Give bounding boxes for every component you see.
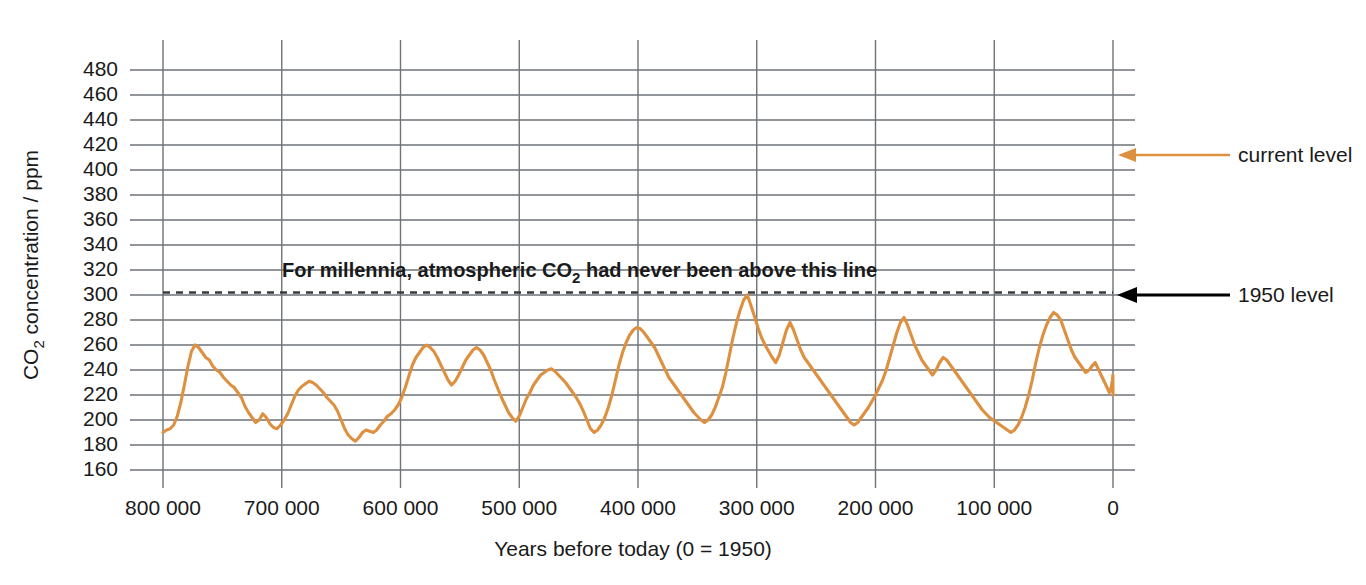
- y-tick-label-220: 220: [83, 382, 118, 405]
- y-axis-title-pre: CO: [19, 349, 42, 381]
- y-tick-label-340: 340: [83, 232, 118, 255]
- y-tick-label-460: 460: [83, 82, 118, 105]
- x-tick-label-300000: 300 000: [719, 496, 795, 519]
- current-level-label: current level: [1238, 143, 1352, 166]
- y-tick-label-300: 300: [83, 282, 118, 305]
- annotation-text-post: had never been above this line: [580, 259, 877, 281]
- y-tick-label-180: 180: [83, 432, 118, 455]
- x-tick-label-600000: 600 000: [363, 496, 439, 519]
- y-axis-title-post: concentration / ppm: [19, 150, 42, 340]
- y-axis-tick-labels: 4804604404204003803603403203002802602402…: [83, 57, 118, 480]
- y-tick-label-420: 420: [83, 132, 118, 155]
- co2-concentration-chart: 4804604404204003803603403203002802602402…: [0, 0, 1366, 585]
- y-tick-label-400: 400: [83, 157, 118, 180]
- y-tick-label-200: 200: [83, 407, 118, 430]
- x-tick-label-200000: 200 000: [838, 496, 914, 519]
- x-tick-label-100000: 100 000: [956, 496, 1032, 519]
- y-tick-label-260: 260: [83, 332, 118, 355]
- annotation-text-subscript: 2: [572, 269, 580, 286]
- chart-svg: 4804604404204003803603403203002802602402…: [0, 0, 1366, 585]
- y-tick-label-360: 360: [83, 207, 118, 230]
- y-tick-label-320: 320: [83, 257, 118, 280]
- x-axis-tick-labels: 800 000700 000600 000500 000400 000300 0…: [125, 496, 1119, 519]
- 1950-level-label: 1950 level: [1238, 283, 1334, 306]
- y-tick-label-280: 280: [83, 307, 118, 330]
- y-tick-label-160: 160: [83, 457, 118, 480]
- x-tick-label-700000: 700 000: [244, 496, 320, 519]
- y-tick-label-480: 480: [83, 57, 118, 80]
- y-tick-label-240: 240: [83, 357, 118, 380]
- x-tick-label-0: 0: [1107, 496, 1119, 519]
- x-tick-label-500000: 500 000: [481, 496, 557, 519]
- x-tick-label-400000: 400 000: [600, 496, 676, 519]
- annotation-text-pre: For millennia, atmospheric CO: [282, 259, 572, 281]
- x-tick-label-800000: 800 000: [125, 496, 201, 519]
- x-axis-title: Years before today (0 = 1950): [494, 537, 772, 560]
- y-axis-title-subscript: 2: [30, 340, 47, 348]
- y-tick-label-440: 440: [83, 107, 118, 130]
- y-tick-label-380: 380: [83, 182, 118, 205]
